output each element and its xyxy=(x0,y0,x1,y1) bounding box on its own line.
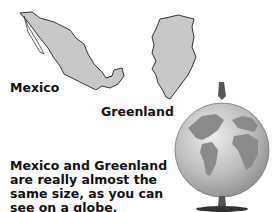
globe-icon xyxy=(172,80,273,212)
caption-line: Mexico and Greenland xyxy=(10,159,185,173)
globe-illustration xyxy=(172,80,273,212)
mexico-outline-icon xyxy=(10,8,130,90)
mexico-map xyxy=(10,8,130,90)
mexico-label: Mexico xyxy=(10,80,59,95)
greenland-label: Greenland xyxy=(101,104,174,119)
caption-line: see on a globe. xyxy=(10,201,185,212)
caption-text: Mexico and Greenland are really almost t… xyxy=(10,159,185,212)
caption-line: are really almost the xyxy=(10,173,185,187)
caption-line: same size, as you can xyxy=(10,187,185,201)
